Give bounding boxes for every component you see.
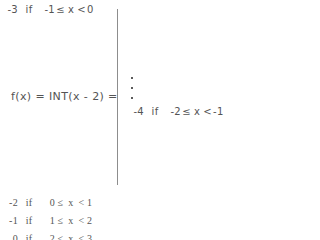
condition-upper-operator: < (76, 215, 87, 226)
case-condition: 1≤x<2 (40, 215, 92, 226)
condition-upper-bound: -1 (213, 106, 224, 117)
condition-variable: x (66, 233, 76, 240)
case-condition: 0≤x<1 (40, 197, 92, 208)
condition-lower-bound: 2 (40, 233, 55, 240)
case-value: -4 (126, 106, 144, 117)
case-value: -1 (0, 215, 18, 226)
case-row: -1 if 1≤x<2 (0, 211, 320, 229)
condition-upper-operator: < (202, 106, 213, 117)
condition-lower-operator: ≤ (55, 233, 66, 240)
case-value: -2 (0, 197, 18, 208)
ellipsis-dot (131, 97, 133, 99)
condition-lower-operator: ≤ (55, 197, 66, 208)
vertical-ellipsis-top (126, 73, 246, 103)
condition-upper-bound: 3 (87, 233, 92, 240)
case-row: 0 if 2≤x<3 (0, 229, 320, 240)
case-stack: -4 if -2≤x<-1 (126, 0, 246, 193)
condition-lower-operator: ≤ (181, 106, 192, 117)
condition-lower-operator: ≤ (55, 215, 66, 226)
case-row: -2 if 0≤x<1 (0, 193, 320, 211)
condition-variable: x (192, 106, 202, 117)
piecewise-function-figure: f(x) = INT(x - 2) = -4 if -2≤x<-1 -3 if … (0, 0, 246, 193)
condition-upper-bound: 1 (87, 197, 92, 208)
case-condition: -2≤x<-1 (166, 106, 224, 117)
ellipsis-dot (131, 77, 133, 79)
case-if-keyword: if (18, 215, 40, 226)
condition-lower-bound: 0 (40, 197, 55, 208)
condition-variable: x (66, 197, 76, 208)
ellipsis-dot (131, 87, 133, 89)
function-definition-lhs: f(x) = INT(x - 2) = (11, 0, 118, 193)
condition-upper-operator: < (76, 197, 87, 208)
condition-variable: x (66, 215, 76, 226)
condition-lower-bound: -2 (166, 106, 181, 117)
case-value: 0 (0, 233, 18, 240)
case-if-keyword: if (144, 106, 166, 117)
condition-lower-bound: 1 (40, 215, 55, 226)
case-if-keyword: if (18, 197, 40, 208)
case-condition: 2≤x<3 (40, 233, 92, 240)
condition-upper-operator: < (76, 233, 87, 240)
case-row: -4 if -2≤x<-1 (126, 103, 246, 121)
condition-upper-bound: 2 (87, 215, 92, 226)
case-brace-bar (117, 9, 118, 185)
case-if-keyword: if (18, 233, 40, 240)
